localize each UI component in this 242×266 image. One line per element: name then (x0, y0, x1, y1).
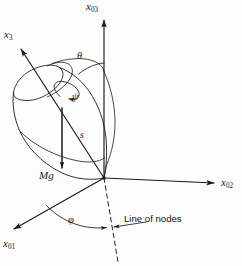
angle-label-phi: φ (68, 215, 74, 226)
axis-label-x3: x3 (4, 29, 12, 40)
axis-label-x03: x03 (86, 1, 98, 12)
force-label-mg: Mg (39, 170, 54, 181)
axis-x02-line (104, 178, 214, 183)
top-body-outline (13, 68, 107, 180)
axis-label-x01: x01 (3, 238, 15, 249)
angle-phi-arc (47, 206, 107, 228)
pivot-point (102, 176, 105, 179)
distance-label-s: s (80, 131, 84, 141)
line-of-nodes-dashed (104, 178, 118, 262)
axis-label-x02: x02 (221, 177, 233, 188)
spinning-top-diagram: x03 x3 x02 x01 θ ψ s Mg φ Line of nodes (0, 0, 242, 266)
diagram-canvas (0, 0, 242, 266)
angle-label-psi: ψ (72, 92, 79, 103)
top-body-rear-curve (104, 72, 115, 178)
angle-label-theta: θ (77, 51, 82, 62)
line-of-nodes-label: Line of nodes (124, 214, 182, 224)
axis-x01-line (14, 178, 104, 229)
